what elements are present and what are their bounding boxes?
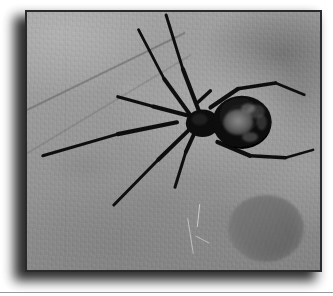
page-canvas: Black widow spider hanging in its web: [0, 0, 333, 296]
page-bottom-rule: [0, 292, 333, 293]
blurred-blob-texture: [228, 195, 304, 262]
spider-photograph: Black widow spider hanging in its web: [27, 12, 320, 270]
blurred-blob: [228, 195, 304, 262]
photo-frame[interactable]: Black widow spider hanging in its web: [25, 10, 322, 272]
web-strand-diagonal-secondary-icon: [27, 12, 191, 177]
